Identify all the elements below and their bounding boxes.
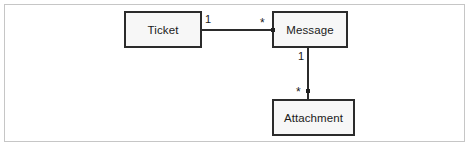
class-name-ticket: Ticket: [148, 24, 179, 36]
class-box-message[interactable]: Message: [272, 11, 348, 48]
association-endpoint-dot-attachment: [306, 89, 310, 93]
class-name-attachment: Attachment: [284, 112, 343, 124]
association-endpoint-dot-message: [271, 28, 275, 32]
multiplicity-label-ticket: 1: [205, 14, 211, 25]
class-name-message: Message: [286, 24, 333, 36]
class-box-ticket[interactable]: Ticket: [124, 11, 202, 48]
multiplicity-label-message-from-ticket: *: [260, 17, 265, 29]
class-box-attachment[interactable]: Attachment: [272, 99, 355, 136]
uml-class-diagram: Ticket Message Attachment 1 * 1 *: [0, 0, 472, 149]
multiplicity-label-attachment: *: [296, 86, 301, 98]
multiplicity-label-message-to-attachment: 1: [298, 51, 304, 62]
